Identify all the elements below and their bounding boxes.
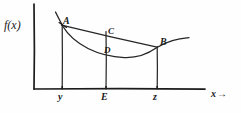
point-label-c: C [108,27,114,36]
point-label-a: A [63,16,70,26]
x-axis-label: x [211,88,216,99]
point-label-d: D [104,46,111,55]
x-tick-label-y: y [58,92,62,102]
y-axis-label: f(x) [4,19,21,31]
x-axis-line [34,89,205,90]
x-tick-label-e: E [101,92,108,102]
x-axis-label-group: x→ [211,89,227,99]
figure-canvas: f(x) A C D B y E z x→ [0,0,241,113]
convex-curve [56,12,190,58]
diagram-svg [0,0,241,113]
point-label-b: B [160,37,167,47]
right-arrow-icon: → [217,88,227,99]
x-tick-label-z: z [153,92,157,102]
